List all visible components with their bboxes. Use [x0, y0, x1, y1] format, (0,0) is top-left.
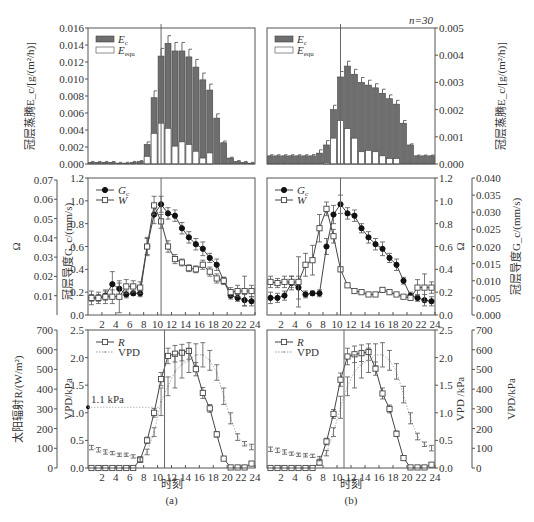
- marker-w: [207, 269, 212, 274]
- b-bot-vpd-outer-label: VPD/kPa: [505, 378, 517, 420]
- marker-w: [89, 295, 94, 300]
- marker-r: [228, 465, 233, 470]
- b-top-y-tick-label: 0.002: [439, 104, 464, 116]
- marker-r: [380, 391, 385, 396]
- marker-vpd: [305, 455, 307, 457]
- b-bot-y-tick-label: 1.5: [439, 379, 453, 391]
- marker-gc: [373, 242, 378, 247]
- b-top-ylabel: 冠层蒸腾E_c/[g/(m²/h)]: [494, 42, 508, 150]
- x-tick-label: 20: [402, 471, 414, 483]
- bar-ec: [268, 156, 274, 164]
- marker-w: [131, 284, 136, 289]
- bar-ec: [324, 145, 330, 164]
- marker-r: [429, 462, 434, 467]
- x-tick-label: 8: [141, 318, 147, 330]
- x-tick-label: 16: [194, 318, 206, 330]
- marker-gc: [429, 299, 434, 304]
- b-bot-y-tick-label: 2.0: [439, 352, 453, 364]
- bar-ec: [387, 99, 393, 164]
- panel-label: (a): [165, 494, 178, 507]
- x-tick-label: 22: [236, 471, 247, 483]
- marker-r: [338, 377, 343, 382]
- legend-swatch-ec: [96, 36, 114, 42]
- bar-eequ: [366, 150, 372, 164]
- series-line-w: [91, 205, 251, 297]
- marker-gc: [186, 235, 191, 240]
- marker-r: [324, 439, 329, 444]
- a-mid-omega-tick-label: 0.07: [34, 174, 54, 186]
- marker-vpd: [354, 371, 356, 373]
- x-tick-label: 8: [320, 318, 326, 330]
- bar-ec: [422, 156, 428, 164]
- marker-gc: [401, 278, 406, 283]
- marker-w: [394, 292, 399, 297]
- marker-r: [193, 367, 198, 372]
- x-tick-label: 12: [346, 318, 357, 330]
- marker-vpd: [167, 386, 169, 388]
- x-tick-label: 22: [416, 318, 427, 330]
- marker-vpd: [105, 451, 107, 453]
- marker-w: [242, 288, 247, 293]
- plot-frame: [267, 330, 435, 468]
- marker-gc: [193, 242, 198, 247]
- marker-vpd: [237, 436, 239, 438]
- a-bot-r-tick-label: 300: [37, 403, 54, 415]
- marker-w: [200, 262, 205, 267]
- marker-w: [282, 279, 287, 284]
- marker-vpd: [361, 363, 363, 365]
- b-top-y-tick-label: 0.001: [439, 131, 464, 143]
- x-tick-label: 4: [292, 471, 298, 483]
- marker-vpd: [160, 401, 162, 403]
- a-mid-y-tick-label: 1.2: [70, 172, 84, 184]
- marker-r: [214, 432, 219, 437]
- marker-gc: [110, 282, 115, 287]
- marker-r: [221, 456, 226, 461]
- marker-gc: [387, 255, 392, 260]
- legend-label-vpd: VPD: [118, 346, 140, 358]
- b-bot-r-tick-label: 400: [476, 383, 493, 395]
- marker-vpd: [188, 360, 190, 362]
- a-bot-y-tick-label: 0.0: [70, 462, 84, 474]
- marker-vpd: [396, 371, 398, 373]
- a-top-y-tick-label: 0.000: [59, 158, 84, 170]
- marker-vpd: [230, 418, 232, 420]
- marker-vpd: [403, 394, 405, 396]
- b-mid-gc-tick-label: 0.010: [476, 275, 501, 287]
- bar-eequ: [380, 156, 386, 164]
- marker-r: [415, 465, 420, 470]
- marker-w: [331, 234, 336, 239]
- bar-eequ: [172, 146, 178, 164]
- bar-eequ: [345, 129, 351, 164]
- a-bot-r-tick-label: 200: [37, 423, 54, 435]
- a-top-y-tick-label: 0.014: [59, 39, 84, 51]
- legend-swatch-eequ: [275, 47, 293, 53]
- b-mid-y-tick-label: 0.2: [439, 286, 453, 298]
- marker-gc: [249, 299, 254, 304]
- legend-marker: [281, 187, 286, 192]
- x-tick-label: 14: [360, 318, 372, 330]
- marker-r: [373, 366, 378, 371]
- bar-ec: [275, 156, 281, 164]
- a-mid-omega-tick-label: 0.03: [34, 251, 54, 263]
- marker-gc: [394, 262, 399, 267]
- marker-gc: [317, 291, 322, 296]
- b-top-y-tick-label: 0.004: [439, 49, 464, 61]
- marker-gc: [359, 226, 364, 231]
- bar-ec: [193, 67, 199, 164]
- x-tick-label: 20: [222, 471, 234, 483]
- b-mid-gc-tick-label: 0.015: [476, 258, 501, 270]
- marker-vpd: [312, 455, 314, 457]
- marker-r: [242, 465, 247, 470]
- legend-marker: [281, 197, 286, 202]
- x-tick-label: 16: [194, 471, 206, 483]
- marker-vpd: [146, 451, 148, 453]
- marker-vpd: [291, 453, 293, 455]
- bar-eequ: [179, 142, 185, 164]
- series-line-r: [271, 352, 432, 468]
- x-tick-label: 6: [127, 471, 133, 483]
- b-bot-y-tick-label: 2.5: [439, 324, 453, 336]
- a-bot-y-tick-label: 0.5: [70, 434, 84, 446]
- marker-w: [179, 260, 184, 265]
- marker-w: [366, 292, 371, 297]
- marker-vpd: [132, 456, 134, 458]
